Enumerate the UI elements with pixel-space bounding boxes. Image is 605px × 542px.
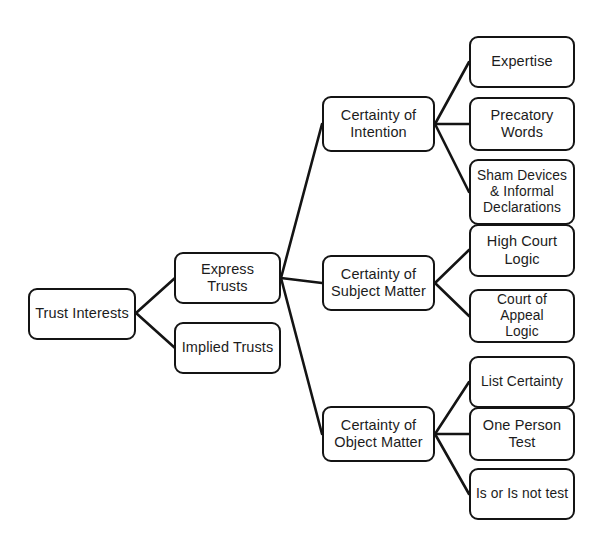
node-court-of-appeal-logic[interactable]: Court of Appeal Logic: [469, 289, 575, 343]
node-one-person-test-label: One Person Test: [483, 417, 561, 451]
node-expertise[interactable]: Expertise: [469, 36, 575, 88]
edge-intention-sham: [435, 124, 469, 192]
node-implied-trusts-label: Implied Trusts: [182, 339, 274, 356]
node-certainty-of-intention[interactable]: Certainty of Intention: [322, 96, 435, 152]
node-express-trusts-label: Express Trusts: [180, 261, 275, 295]
node-is-or-is-not-test-label: Is or Is not test: [476, 486, 568, 502]
node-sham-devices-label: Sham Devices & Informal Declarations: [477, 168, 567, 217]
node-expertise-label: Expertise: [491, 53, 552, 70]
node-is-or-is-not-test[interactable]: Is or Is not test: [469, 468, 575, 520]
node-certainty-of-subject-matter[interactable]: Certainty of Subject Matter: [322, 255, 435, 311]
node-court-of-appeal-logic-label: Court of Appeal Logic: [475, 292, 569, 341]
node-certainty-of-object-matter[interactable]: Certainty of Object Matter: [322, 406, 435, 462]
node-certainty-of-object-matter-label: Certainty of Object Matter: [334, 417, 422, 451]
edge-object-list: [435, 382, 469, 434]
node-sham-devices[interactable]: Sham Devices & Informal Declarations: [469, 159, 575, 225]
edge-express-intention: [281, 124, 322, 278]
node-list-certainty[interactable]: List Certainty: [469, 356, 575, 408]
edge-subject-courtappeal: [435, 283, 469, 316]
node-list-certainty-label: List Certainty: [481, 374, 563, 390]
edge-express-object: [281, 278, 322, 434]
edge-root-implied: [136, 313, 175, 348]
edge-root-express: [136, 278, 175, 313]
node-express-trusts[interactable]: Express Trusts: [174, 252, 281, 304]
node-certainty-of-intention-label: Certainty of Intention: [341, 107, 416, 141]
node-implied-trusts[interactable]: Implied Trusts: [174, 322, 281, 374]
diagram-canvas: Trust Interests Express Trusts Implied T…: [0, 0, 605, 542]
node-high-court-logic[interactable]: High Court Logic: [469, 224, 575, 277]
node-precatory-words[interactable]: Precatory Words: [469, 97, 575, 151]
node-trust-interests-label: Trust Interests: [35, 305, 129, 322]
node-precatory-words-label: Precatory Words: [491, 107, 554, 141]
node-high-court-logic-label: High Court Logic: [487, 233, 557, 267]
edge-object-isornot: [435, 434, 469, 494]
edge-subject-highcourt: [435, 250, 469, 283]
node-certainty-of-subject-matter-label: Certainty of Subject Matter: [331, 266, 426, 300]
edge-intention-expertise: [435, 62, 469, 124]
node-one-person-test[interactable]: One Person Test: [469, 407, 575, 461]
node-trust-interests[interactable]: Trust Interests: [28, 288, 136, 340]
edge-express-subject: [281, 278, 322, 283]
